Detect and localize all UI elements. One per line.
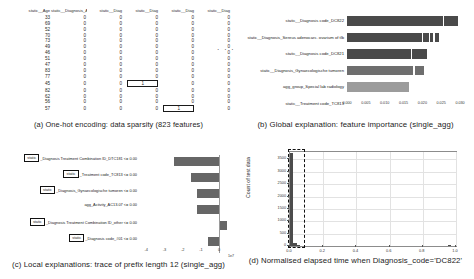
bar-divider xyxy=(422,33,423,43)
global-importance-x-axis: 0.0000.0050.0100.0150.0200.0250.030 xyxy=(347,101,465,111)
panel-b-global-importance: static__Diagnosis code_DC822static__Diag… xyxy=(237,0,474,139)
histogram-bar xyxy=(448,245,451,246)
x-axis-tick-label: -2 xyxy=(181,247,184,252)
feature-importance-label: static__Treatment code_TC813 xyxy=(237,101,347,106)
local-explanation-bar xyxy=(191,173,219,182)
feature-importance-row: static__Diagnosis code_DC821 xyxy=(237,47,460,60)
grid-line-vertical xyxy=(323,152,324,246)
axis-exponent-label: 1e7 xyxy=(228,254,234,258)
y-axis-tick-mark xyxy=(287,171,289,172)
y-axis-tick-mark xyxy=(287,233,289,234)
feature-condition-text: _Diagnosis code_#01 <= 0.00 xyxy=(85,236,137,241)
grid-line-horizontal xyxy=(290,234,456,235)
local-explanation-bar xyxy=(197,205,219,214)
grid-line-horizontal xyxy=(290,159,456,160)
y-axis-tick-label: 3000 xyxy=(267,169,286,173)
bar-divider xyxy=(429,33,430,43)
grid-line-horizontal xyxy=(290,197,456,198)
local-explanation-label: static_Diagnosis Treatment Combination I… xyxy=(24,154,137,162)
bar-divider xyxy=(413,66,414,76)
table-cell: 0 xyxy=(195,79,231,87)
x-axis-tick-label: 0.4 xyxy=(353,248,358,253)
feature-importance-row: static__Diagnosis code_DC822 xyxy=(237,14,460,27)
y-axis-tick-label: 3500 xyxy=(267,156,286,160)
bar-divider xyxy=(433,33,434,43)
x-axis-tick-label: 0.010 xyxy=(380,101,389,105)
y-axis-tick-mark xyxy=(287,208,289,209)
local-explanations-x-axis: -4-3-2-101e7 xyxy=(139,247,230,257)
x-axis-tick-mark xyxy=(355,245,356,247)
grid-line-vertical xyxy=(456,152,457,246)
bar-divider xyxy=(443,16,444,26)
feature-importance-row: static__Diagnosis_Sereus adenocarc. ovar… xyxy=(237,31,460,44)
feature-importance-label: agg_group_Special lab radiology xyxy=(237,84,347,89)
x-axis-tick-mark xyxy=(389,245,390,247)
panel-c-caption: (c) Local explanations: trace of prefix … xyxy=(0,260,237,269)
highlighted-value: 1 xyxy=(163,105,194,112)
panel-d-caption: (d) Normalised elapsed time when Diagnos… xyxy=(237,256,474,265)
feature-importance-label: static__Diagnosis_Gynaecologische tumore… xyxy=(237,68,347,73)
x-axis-tick-mark xyxy=(289,245,290,247)
x-axis-tick-label: 0.000 xyxy=(342,101,351,105)
table-cell: 0 xyxy=(87,79,123,87)
feature-importance-label: static__Diagnosis code_DC821 xyxy=(237,51,347,56)
y-axis-tick-label: 500 xyxy=(267,231,286,235)
local-explanations-plot xyxy=(139,155,230,253)
sparsity-table: static__Age static__Diagnosis_Artritis s… xyxy=(10,8,231,113)
panel-c-local-explanations: static_Diagnosis Treatment Combination I… xyxy=(0,139,237,279)
x-axis-tick-label: 0.005 xyxy=(361,101,370,105)
feature-condition-text: agg_Activity_AC13.07 <= 0.00 xyxy=(84,202,137,207)
feature-importance-label: static__Diagnosis code_DC822 xyxy=(237,18,347,23)
y-axis-tick-label: 0 xyxy=(267,243,286,247)
feature-importance-bar xyxy=(347,33,439,43)
table-cell: 1 xyxy=(123,79,159,87)
table-cell: 1 xyxy=(159,105,195,113)
feature-condition-text: _Diagnosis_Gynaecologische tumoren <= 0.… xyxy=(56,188,137,193)
table-cell: 0 xyxy=(87,105,123,113)
x-axis-tick-label: 0.0 xyxy=(286,248,291,253)
table-cell: 0 xyxy=(51,105,87,113)
row-ellipsis: · · · xyxy=(217,46,235,53)
feature-importance-track xyxy=(347,81,460,92)
sparsity-table-body: 3300000690000052000007000000730000049000… xyxy=(10,15,231,113)
grid-line-horizontal xyxy=(290,172,456,173)
table-row: 4500100 xyxy=(10,79,231,87)
x-axis-tick-mark xyxy=(322,245,323,247)
local-explanation-label: static_Diagnosis code_#01 <= 0.00 xyxy=(69,234,137,242)
x-axis-tick-mark xyxy=(455,245,456,247)
grid-line-vertical xyxy=(390,152,391,246)
feature-prefix-box: static xyxy=(40,186,55,194)
x-axis-tick-label: 0.020 xyxy=(418,101,427,105)
feature-importance-track xyxy=(347,65,460,76)
feature-prefix-box: static xyxy=(69,234,84,242)
table-cell: 0 xyxy=(195,105,231,113)
local-explanation-bar xyxy=(208,237,219,246)
feature-importance-label: static__Diagnosis_Sereus adenocarc. ovar… xyxy=(237,35,347,40)
y-axis-tick-mark xyxy=(287,183,289,184)
table-cell: 57 xyxy=(10,105,51,113)
y-axis-tick-mark xyxy=(287,158,289,159)
feature-prefix-box: static xyxy=(30,218,45,226)
histogram-plot xyxy=(289,151,457,247)
feature-condition-text: _Diagnosis Treatment Combination ID_othe… xyxy=(46,220,137,225)
histogram-highlight-box xyxy=(288,149,305,248)
x-axis-tick-label: -3 xyxy=(163,247,166,252)
sparsity-table-wrap: static__Age static__Diagnosis_Artritis s… xyxy=(10,8,233,113)
table-cell: 45 xyxy=(10,79,51,87)
x-axis-tick-label: -1 xyxy=(199,247,202,252)
local-explanation-bar xyxy=(219,221,227,230)
y-axis-tick-label: 1000 xyxy=(267,218,286,222)
local-explanation-label: static_Diagnosis Treatment Combination I… xyxy=(30,218,137,226)
x-axis-tick-label: 0 xyxy=(218,247,220,252)
four-panel-figure: static__Age static__Diagnosis_Artritis s… xyxy=(0,0,474,279)
x-axis-tick-label: 0.030 xyxy=(455,101,464,105)
highlighted-value: 1 xyxy=(127,80,158,87)
x-axis-tick-label: 0.025 xyxy=(437,101,446,105)
feature-importance-track xyxy=(347,32,460,43)
histogram-y-axis-label: Count of test data xyxy=(245,157,251,198)
table-cell: 0 xyxy=(51,79,87,87)
feature-condition-text: _Diagnosis Treatment Combination ID_DTC1… xyxy=(40,156,137,161)
y-axis-tick-mark xyxy=(287,220,289,221)
panel-a-caption: (a) One-hot encoding: data sparsity (823… xyxy=(0,120,237,129)
local-explanations-chart: static_Diagnosis Treatment Combination I… xyxy=(0,147,237,259)
